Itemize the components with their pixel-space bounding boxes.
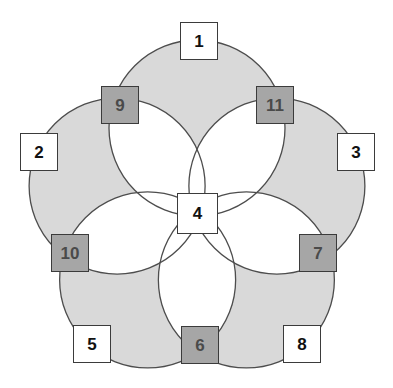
node-8[interactable]: 8 — [283, 325, 321, 363]
node-6[interactable]: 6 — [181, 326, 219, 364]
node-label-6: 6 — [195, 337, 204, 354]
node-10[interactable]: 10 — [51, 234, 89, 272]
node-label-10: 10 — [61, 245, 80, 262]
node-label-1: 1 — [194, 33, 203, 50]
node-label-5: 5 — [87, 336, 96, 353]
node-4[interactable]: 4 — [177, 193, 218, 234]
node-1[interactable]: 1 — [180, 22, 218, 60]
rosette-diagram: 1234567891011 — [0, 0, 393, 388]
node-11[interactable]: 11 — [256, 86, 294, 124]
node-label-7: 7 — [313, 245, 322, 262]
node-9[interactable]: 9 — [101, 86, 139, 124]
node-2[interactable]: 2 — [20, 133, 58, 171]
node-7[interactable]: 7 — [299, 234, 337, 272]
node-label-8: 8 — [297, 336, 306, 353]
node-5[interactable]: 5 — [73, 325, 111, 363]
node-label-9: 9 — [115, 97, 124, 114]
node-label-2: 2 — [34, 144, 43, 161]
node-label-11: 11 — [266, 97, 284, 114]
node-label-4: 4 — [193, 205, 202, 222]
node-label-3: 3 — [351, 144, 360, 161]
node-3[interactable]: 3 — [337, 133, 375, 171]
